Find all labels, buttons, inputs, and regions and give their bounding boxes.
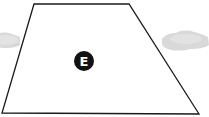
right-car-icon — [162, 31, 209, 51]
zone-marker: E — [74, 51, 94, 71]
parking-zone-diagram: E — [0, 0, 209, 117]
zone-outline — [2, 4, 199, 114]
left-car-icon — [0, 33, 20, 48]
marker-label: E — [80, 54, 89, 69]
